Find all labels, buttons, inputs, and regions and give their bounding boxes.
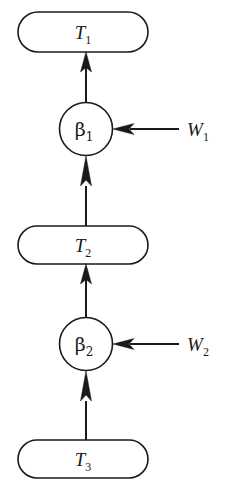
node-t3[interactable]: T3 (18, 440, 148, 478)
edge-t2-to-beta1-arrowhead (81, 156, 92, 186)
diagram-container: T1 β1 W1 (0, 0, 226, 490)
node-beta2[interactable]: β2 (60, 318, 113, 371)
node-t1[interactable]: T1 (18, 12, 148, 52)
node-t2[interactable]: T2 (18, 226, 148, 264)
edge-t3-to-beta2 (81, 371, 92, 440)
edge-w2-to-beta2 (113, 339, 179, 350)
edge-t3-to-beta2-arrowhead (81, 371, 92, 401)
node-beta1-shape (60, 103, 113, 156)
edge-beta1-to-t1 (81, 52, 92, 102)
edge-w1-to-beta1 (113, 124, 179, 135)
input-w2-label: W2 (187, 334, 209, 359)
edge-beta2-to-t2 (81, 264, 92, 317)
node-beta1[interactable]: β1 (60, 103, 113, 156)
input-w2: W2 (187, 334, 209, 359)
node-beta2-shape (60, 318, 113, 371)
input-w1-label: W1 (187, 119, 209, 144)
input-w1: W1 (187, 119, 209, 144)
flow-diagram-canvas: T1 β1 W1 (0, 0, 226, 490)
edge-t2-to-beta1 (81, 156, 92, 226)
